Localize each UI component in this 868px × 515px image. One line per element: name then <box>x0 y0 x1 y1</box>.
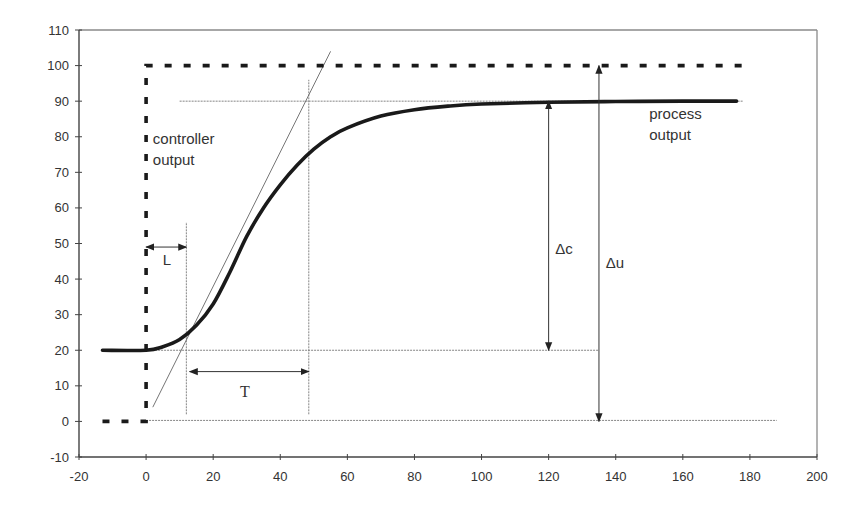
x-tick-label: 40 <box>273 469 287 484</box>
y-tick-label: 110 <box>48 23 69 38</box>
annotation-label-delta-u: Δu <box>606 254 624 271</box>
x-tick-label: 80 <box>407 469 421 484</box>
y-tick-label: 30 <box>55 307 69 322</box>
y-tick-label: 70 <box>55 165 69 180</box>
y-tick-label: 40 <box>55 272 69 287</box>
x-tick-label: 0 <box>142 469 149 484</box>
y-tick-label: -10 <box>50 450 69 465</box>
annotation-label-controller-output: controlleroutput <box>153 130 215 168</box>
y-tick-label: 20 <box>55 343 69 358</box>
annotation-label-t: T <box>240 383 250 400</box>
annotation-label-delta-c: Δc <box>555 240 573 257</box>
annotations: controlleroutputprocessoutputLTΔcΔu <box>146 66 702 422</box>
step-response-chart: -100102030405060708090100110-20020406080… <box>0 0 868 515</box>
plot-frame <box>79 30 817 457</box>
x-tick-label: 20 <box>206 469 220 484</box>
y-tick-label: 100 <box>47 58 69 73</box>
y-tick-label: 90 <box>55 94 69 109</box>
y-tick-label: 80 <box>55 129 69 144</box>
annotation-label-process-output: processoutput <box>649 105 702 143</box>
x-tick-label: 160 <box>672 469 694 484</box>
controller-output-line <box>102 66 743 422</box>
x-tick-label: 60 <box>340 469 354 484</box>
x-tick-label: 120 <box>538 469 560 484</box>
x-tick-label: 140 <box>605 469 627 484</box>
data-series <box>102 66 743 422</box>
y-tick-label: 60 <box>55 200 69 215</box>
x-tick-label: 200 <box>806 469 828 484</box>
y-tick-label: 10 <box>55 378 69 393</box>
x-tick-label: -20 <box>70 469 89 484</box>
x-tick-label: 100 <box>471 469 493 484</box>
y-tick-label: 0 <box>62 414 69 429</box>
inflection-tangent-line <box>153 51 331 407</box>
y-tick-label: 50 <box>55 236 69 251</box>
annotation-label-l: L <box>163 251 171 268</box>
x-tick-label: 180 <box>739 469 761 484</box>
